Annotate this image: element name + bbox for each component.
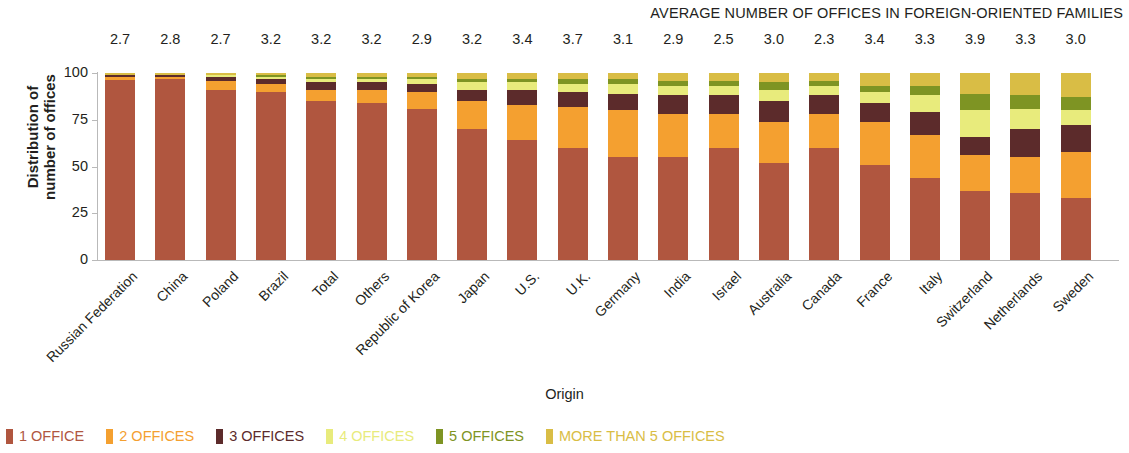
- x-axis-tick-label-text: Poland: [199, 268, 241, 310]
- stacked-bar[interactable]: [608, 73, 638, 260]
- legend-label: 1 OFFICE: [19, 428, 84, 444]
- bar-segment: [1010, 157, 1040, 193]
- x-axis-tick-label-text: Australia: [744, 268, 794, 318]
- bar-segment: [206, 81, 236, 90]
- bar-segment: [457, 90, 487, 101]
- bar-segment: [709, 95, 739, 114]
- stacked-bar[interactable]: [759, 73, 789, 260]
- y-axis-tick-mark: [92, 260, 97, 261]
- average-value-label: 3.1: [598, 31, 648, 47]
- stacked-bar[interactable]: [960, 73, 990, 260]
- legend-swatch: [546, 429, 553, 444]
- bar-segment: [608, 84, 638, 93]
- stacked-bar[interactable]: [105, 73, 135, 260]
- y-axis-tick-label: 25: [54, 204, 88, 220]
- bar-segment: [407, 92, 437, 109]
- average-value-label: 2.8: [145, 31, 195, 47]
- bar-segment: [206, 90, 236, 260]
- bar-segment: [759, 82, 789, 89]
- bar-segment: [809, 86, 839, 95]
- x-axis-tick-label-text: Canada: [799, 268, 845, 314]
- stacked-bar[interactable]: [357, 73, 387, 260]
- bar-segment: [910, 73, 940, 86]
- bar-segment: [558, 107, 588, 148]
- bar-segment: [306, 90, 336, 101]
- bar-segment: [860, 103, 890, 122]
- bar-segment: [709, 73, 739, 80]
- average-value-label: 3.3: [1000, 31, 1050, 47]
- bar-segment: [759, 163, 789, 260]
- bar-segment: [256, 92, 286, 260]
- stacked-bar[interactable]: [709, 73, 739, 260]
- bar-segment: [608, 157, 638, 260]
- bar-segment: [709, 148, 739, 260]
- average-value-label: 3.2: [347, 31, 397, 47]
- bar-segment: [658, 95, 688, 114]
- bar-segment: [558, 148, 588, 260]
- stacked-bar[interactable]: [507, 73, 537, 260]
- legend-item[interactable]: 5 OFFICES: [436, 428, 524, 444]
- x-axis-tick-label-text: Brazil: [255, 268, 291, 304]
- legend-item[interactable]: 4 OFFICES: [326, 428, 414, 444]
- average-value-label: 2.9: [397, 31, 447, 47]
- bar-segment: [1010, 95, 1040, 108]
- legend-label: 4 OFFICES: [339, 428, 414, 444]
- bar-segment: [407, 84, 437, 91]
- bar-segment: [809, 114, 839, 148]
- legend-item[interactable]: 2 OFFICES: [106, 428, 194, 444]
- x-axis-tick-label-text: China: [153, 268, 190, 305]
- stacked-bar[interactable]: [860, 73, 890, 260]
- legend-item[interactable]: 3 OFFICES: [216, 428, 304, 444]
- x-axis-tick-label-text: Sweden: [1049, 268, 1096, 315]
- y-axis-title-line1: Distribution of: [24, 86, 41, 188]
- x-axis-tick-label-text: U.S.: [512, 268, 543, 299]
- y-axis-tick-label: 0: [54, 251, 88, 267]
- average-value-label: 2.9: [648, 31, 698, 47]
- bar-segment: [759, 73, 789, 82]
- y-axis-title: Distribution of number of offices: [24, 50, 58, 225]
- average-value-label: 3.2: [296, 31, 346, 47]
- bar-segment: [507, 82, 537, 89]
- bar-segment: [658, 73, 688, 80]
- average-value-label: 3.0: [1051, 31, 1101, 47]
- legend-label: 5 OFFICES: [449, 428, 524, 444]
- bar-segment: [860, 92, 890, 103]
- bar-segment: [306, 101, 336, 260]
- legend-label: 3 OFFICES: [229, 428, 304, 444]
- legend-swatch: [6, 429, 13, 444]
- average-value-label: 3.9: [950, 31, 1000, 47]
- bar-segment: [910, 95, 940, 112]
- average-value-label: 3.7: [548, 31, 598, 47]
- bar-segment: [910, 86, 940, 95]
- stacked-bar[interactable]: [910, 73, 940, 260]
- bar-segment: [105, 80, 135, 260]
- chart-legend: 1 OFFICE2 OFFICES3 OFFICES4 OFFICES5 OFF…: [6, 428, 747, 444]
- y-axis-tick-label: 75: [54, 111, 88, 127]
- stacked-bar[interactable]: [256, 73, 286, 260]
- legend-swatch: [436, 429, 443, 444]
- bar-segment: [1061, 97, 1091, 110]
- average-value-label: 2.7: [95, 31, 145, 47]
- stacked-bar[interactable]: [407, 73, 437, 260]
- stacked-bar[interactable]: [558, 73, 588, 260]
- bar-segment: [658, 86, 688, 95]
- stacked-bar[interactable]: [206, 73, 236, 260]
- bar-segment: [357, 82, 387, 89]
- bar-segment: [809, 73, 839, 80]
- average-value-label: 2.7: [196, 31, 246, 47]
- legend-swatch: [106, 429, 113, 444]
- y-axis-tick-mark: [92, 73, 97, 74]
- legend-item[interactable]: MORE THAN 5 OFFICES: [546, 428, 725, 444]
- bar-segment: [608, 94, 638, 111]
- bar-segment: [1010, 129, 1040, 157]
- stacked-bar[interactable]: [306, 73, 336, 260]
- legend-item[interactable]: 1 OFFICE: [6, 428, 84, 444]
- y-axis-tick-mark: [92, 167, 97, 168]
- bar-segment: [1010, 109, 1040, 130]
- bar-segment: [960, 94, 990, 111]
- bar-segment: [960, 110, 990, 136]
- bar-segment: [1061, 152, 1091, 199]
- average-value-label: 3.2: [246, 31, 296, 47]
- legend-label: MORE THAN 5 OFFICES: [559, 428, 725, 444]
- bar-segment: [1061, 73, 1091, 97]
